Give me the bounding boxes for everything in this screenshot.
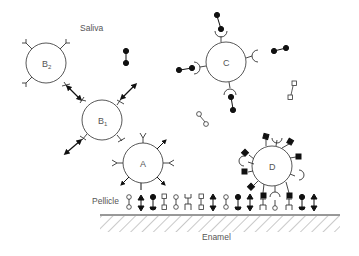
free-molecule-square-pair — [288, 81, 297, 100]
cell-c: C — [176, 12, 258, 112]
free-molecule-circle-pair — [197, 112, 209, 127]
enamel-surface — [100, 215, 340, 232]
coaggregation-link-b2-b1 — [62, 82, 86, 103]
cell-a: A — [112, 133, 174, 190]
cell-c-label: C — [223, 58, 230, 68]
cell-a-label: A — [140, 159, 146, 169]
free-molecule-black-pair — [271, 45, 288, 53]
cell-d-label: D — [269, 162, 276, 172]
cell-d: D — [239, 133, 304, 198]
free-molecule-black-dumbbell — [123, 48, 128, 65]
saliva-label: Saliva — [80, 23, 103, 33]
pellicle-label: Pellicle — [92, 196, 119, 206]
bacterial-adhesion-diagram: Saliva Pellicle Enamel B2 B1 — [0, 0, 359, 256]
enamel-label: Enamel — [202, 232, 231, 242]
cell-b2: B2 — [22, 39, 70, 87]
